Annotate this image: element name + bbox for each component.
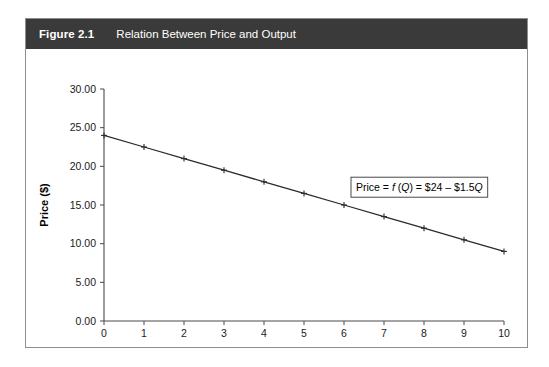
y-tick-label: 0.00 bbox=[76, 315, 97, 327]
y-axis-title: Price ($) bbox=[38, 183, 50, 227]
y-tick-label: 5.00 bbox=[76, 276, 97, 288]
equation-token: ) = $24 – $1.5 bbox=[409, 181, 474, 193]
figure-header-bar: Figure 2.1 Relation Between Price and Ou… bbox=[26, 19, 527, 49]
y-tick-label: 25.00 bbox=[70, 121, 96, 133]
y-tick-label: 15.00 bbox=[70, 199, 96, 211]
y-tick-label: 30.00 bbox=[70, 83, 96, 95]
chart-plot-area: 0.005.0010.0015.0020.0025.0030.00 012345… bbox=[26, 49, 527, 348]
data-point-marker bbox=[141, 144, 147, 150]
y-tick-label: 10.00 bbox=[70, 237, 96, 249]
equation-token: Q bbox=[475, 181, 483, 193]
x-tick-label: 8 bbox=[421, 327, 427, 339]
data-point-marker bbox=[501, 248, 507, 254]
figure-caption-label: Relation Between Price and Output bbox=[116, 28, 296, 40]
x-axis-title: Output per time period (000 units) bbox=[216, 347, 393, 348]
x-axis-tick-labels: 012345678910 bbox=[101, 327, 510, 339]
x-tick-label: 5 bbox=[301, 327, 307, 339]
data-point-marker bbox=[181, 156, 187, 162]
x-tick-label: 3 bbox=[221, 327, 227, 339]
x-tick-label: 9 bbox=[461, 327, 467, 339]
data-point-marker bbox=[461, 237, 467, 243]
data-point-marker bbox=[261, 179, 267, 185]
x-tick-label: 4 bbox=[261, 327, 267, 339]
data-point-marker bbox=[421, 225, 427, 231]
x-tick-label: 1 bbox=[141, 327, 147, 339]
equation-text: Price = f (Q) = $24 – $1.5Q bbox=[356, 181, 483, 193]
y-axis-tick-marks bbox=[100, 89, 104, 321]
data-point-marker bbox=[101, 132, 107, 138]
figure-number-label: Figure 2.1 bbox=[39, 28, 94, 40]
data-point-marker bbox=[381, 214, 387, 220]
data-point-marker bbox=[221, 167, 227, 173]
equation-annotation: Price = f (Q) = $24 – $1.5Q bbox=[351, 177, 488, 197]
x-axis-tick-marks bbox=[104, 321, 504, 325]
x-tick-label: 0 bbox=[101, 327, 107, 339]
x-tick-label: 6 bbox=[341, 327, 347, 339]
price-output-line-chart: 0.005.0010.0015.0020.0025.0030.00 012345… bbox=[26, 49, 527, 348]
data-point-marker bbox=[341, 202, 347, 208]
figure-container: Figure 2.1 Relation Between Price and Ou… bbox=[25, 18, 528, 348]
x-tick-label: 2 bbox=[181, 327, 187, 339]
data-point-marker bbox=[301, 190, 307, 196]
y-axis-tick-labels: 0.005.0010.0015.0020.0025.0030.00 bbox=[70, 83, 96, 327]
y-tick-label: 20.00 bbox=[70, 160, 96, 172]
x-tick-label: 7 bbox=[381, 327, 387, 339]
equation-token: Q bbox=[401, 181, 409, 193]
equation-token: Price = bbox=[356, 181, 392, 193]
x-tick-label: 10 bbox=[498, 327, 510, 339]
